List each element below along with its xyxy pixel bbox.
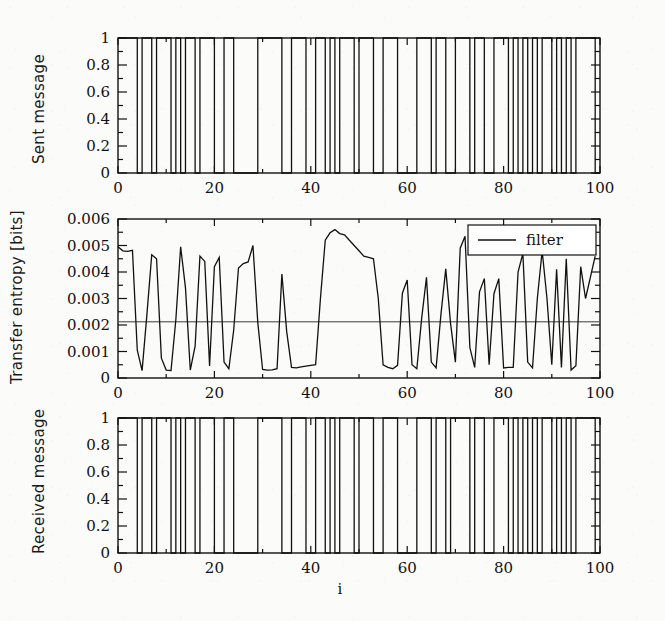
y-tick-label: 0.005 (44, 237, 110, 255)
y-tick-label: 0.6 (44, 463, 110, 481)
legend-entry-label: filter (526, 231, 564, 249)
x-tick-label: 40 (286, 559, 336, 577)
y-tick-label: 0.4 (44, 110, 110, 128)
y-tick-label: 0.001 (44, 343, 110, 361)
y-tick-label: 0.2 (44, 517, 110, 535)
panel-sent-message: Sent message 00.20.40.60.81020406080100 (0, 20, 665, 200)
y-tick-label: 0.2 (44, 137, 110, 155)
x-tick-label: 100 (575, 559, 625, 577)
y-tick-label: 0.8 (44, 436, 110, 454)
y-tick-label: 1 (44, 409, 110, 427)
x-tick-label: 60 (382, 179, 432, 197)
y-tick-label: 0.4 (44, 490, 110, 508)
x-tick-label: 100 (575, 179, 625, 197)
x-tick-label: 0 (93, 559, 143, 577)
y-tick-label: 1 (44, 29, 110, 47)
entropy-y-axis-label: Transfer entropy [bits] (8, 210, 28, 385)
x-tick-label: 60 (382, 559, 432, 577)
y-tick-label: 0.003 (44, 290, 110, 308)
x-axis-title: i (330, 580, 350, 598)
x-tick-label: 20 (189, 559, 239, 577)
y-tick-label: 0.8 (44, 56, 110, 74)
x-tick-label: 20 (189, 179, 239, 197)
y-tick-label: 0.002 (44, 316, 110, 334)
panel-received-message: Received message i 00.20.40.60.810204060… (0, 400, 665, 621)
data-series-line (118, 418, 600, 553)
x-tick-label: 40 (286, 179, 336, 197)
x-tick-label: 80 (479, 559, 529, 577)
y-tick-label: 0.6 (44, 83, 110, 101)
y-tick-label: 0.006 (44, 210, 110, 228)
figure-canvas: Sent message 00.20.40.60.81020406080100 … (0, 0, 665, 621)
x-tick-label: 0 (93, 179, 143, 197)
y-tick-label: 0.004 (44, 263, 110, 281)
x-tick-label: 80 (479, 179, 529, 197)
data-series-line (118, 38, 600, 173)
panel-transfer-entropy: Transfer entropy [bits] filter 00.0010.0… (0, 200, 665, 400)
